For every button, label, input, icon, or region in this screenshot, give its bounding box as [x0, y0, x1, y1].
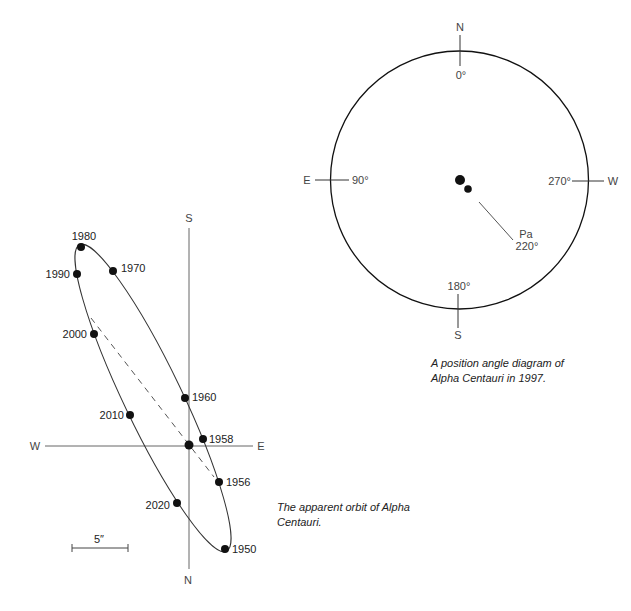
- axis-label-east: E: [257, 440, 264, 452]
- orbit-caption-line-1: The apparent orbit of Alpha: [277, 500, 410, 515]
- orbit-point-1980: [77, 243, 85, 251]
- angle-90-label: 90°: [352, 174, 369, 186]
- position-angle-caption-line-2: Alpha Centauri in 1997.: [431, 371, 564, 386]
- orbit-point-2010: [126, 411, 134, 419]
- orbit-caption: The apparent orbit of Alpha Centauri.: [277, 500, 410, 530]
- orbit-point-1950: [221, 545, 229, 553]
- year-label-1958: 1958: [209, 433, 233, 445]
- year-label-2010: 2010: [100, 409, 124, 421]
- axis-label-west: W: [30, 440, 41, 452]
- pa-label: Pa: [519, 228, 533, 240]
- orbit-caption-line-2: Centauri.: [277, 515, 410, 530]
- alpha-centauri-b-dot: [464, 185, 472, 193]
- orbit-point-2020: [173, 499, 181, 507]
- west-label: W: [608, 175, 619, 187]
- orbit-point-1956: [215, 478, 223, 486]
- year-label-2000: 2000: [63, 328, 87, 340]
- year-label-1960: 1960: [192, 391, 216, 403]
- axis-label-north: N: [184, 574, 192, 586]
- year-label-1980: 1980: [72, 230, 96, 242]
- axis-label-south: S: [185, 212, 192, 224]
- orbit-point-1970: [109, 267, 117, 275]
- year-label-1990: 1990: [46, 268, 70, 280]
- year-label-1970: 1970: [121, 262, 145, 274]
- pa-value: 220°: [516, 240, 539, 252]
- south-label: S: [454, 329, 461, 341]
- angle-180-label: 180°: [448, 280, 471, 292]
- year-label-1950: 1950: [232, 543, 256, 555]
- alpha-centauri-a-dot: [455, 175, 465, 185]
- year-label-2020: 2020: [146, 499, 170, 511]
- year-label-1956: 1956: [226, 476, 250, 488]
- scale-bar: 5″: [72, 533, 128, 552]
- north-label: N: [456, 21, 464, 33]
- orbit-point-1960: [181, 394, 189, 402]
- position-angle-diagram: N 0° 180° S E 90° 270° W Pa 220°: [303, 21, 618, 341]
- angle-0-label: 0°: [456, 69, 467, 81]
- orbit-point-1958: [199, 435, 207, 443]
- primary-star-dot: [185, 441, 194, 450]
- scale-bar-label: 5″: [94, 533, 104, 545]
- east-label: E: [303, 174, 310, 186]
- angle-270-label: 270°: [548, 175, 571, 187]
- pa-leader-line: [479, 202, 513, 240]
- orbit-point-1990: [73, 270, 81, 278]
- position-angle-caption-line-1: A position angle diagram of: [431, 356, 564, 371]
- orbit-diagram: S N W E 1950 1956 1958 1960: [30, 212, 265, 586]
- orbit-point-2000: [90, 330, 98, 338]
- position-angle-caption: A position angle diagram of Alpha Centau…: [431, 356, 564, 386]
